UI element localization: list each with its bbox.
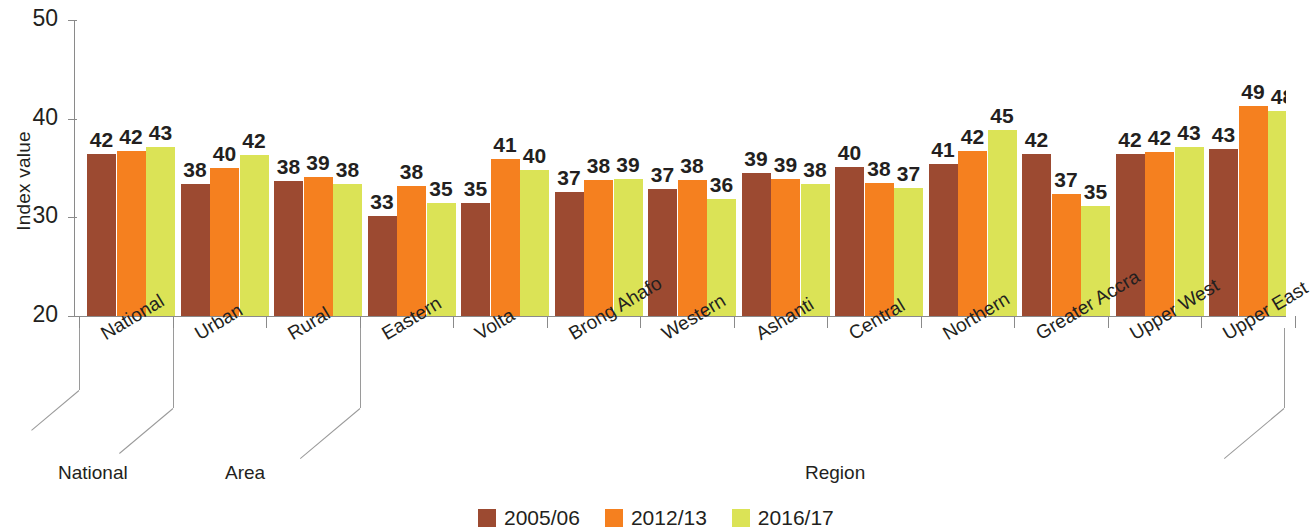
bar (1239, 106, 1268, 316)
group-bracket-line (173, 328, 174, 408)
bar (555, 192, 584, 316)
x-tick-mark (640, 316, 641, 328)
group-bracket-line (1284, 328, 1285, 408)
bar-group: 424243 (87, 20, 175, 316)
legend-item: 2005/06 (478, 506, 580, 530)
bar (742, 173, 771, 316)
bar (1268, 111, 1286, 316)
bar-value-label: 38 (327, 158, 368, 182)
bar (87, 154, 116, 316)
x-tick-mark (921, 316, 922, 328)
group-bracket-diagonal (1224, 408, 1284, 459)
x-tick-mark (453, 316, 454, 328)
bar (333, 184, 362, 316)
bar (304, 177, 333, 316)
bar (929, 164, 958, 316)
bar-group: 384042 (181, 20, 269, 316)
plot-area: 4242433840423839383338353541403738393738… (74, 20, 1286, 316)
bar (274, 181, 303, 316)
bar (491, 159, 520, 316)
x-tick-mark (827, 316, 828, 328)
x-tick-mark (1201, 316, 1202, 328)
bar-value-label: 43 (140, 121, 181, 145)
bar (1052, 194, 1081, 316)
legend-swatch-icon (605, 509, 623, 527)
bar-value-label: 36 (701, 173, 742, 197)
bar-group: 354140 (461, 20, 549, 316)
legend-label: 2012/13 (631, 506, 707, 530)
bar (958, 151, 987, 316)
group-bracket-diagonal (31, 390, 79, 431)
bar-group: 373836 (648, 20, 736, 316)
x-tick-mark (266, 316, 267, 328)
bar (240, 155, 269, 316)
axis-group-label: Area (225, 462, 265, 484)
x-tick-mark (79, 316, 80, 328)
bar (210, 168, 239, 316)
bar-value-label: 48 (1262, 85, 1286, 109)
x-tick-mark (1108, 316, 1109, 328)
bar-group: 393938 (742, 20, 830, 316)
y-tick-label: 40 (14, 104, 58, 131)
bar-group: 383938 (274, 20, 362, 316)
y-tick-label: 20 (14, 301, 58, 328)
bar (146, 147, 175, 316)
bar-group: 434948 (1209, 20, 1286, 316)
legend-label: 2016/17 (758, 506, 834, 530)
bar-value-label: 42 (1016, 128, 1057, 152)
bar (461, 203, 490, 316)
group-bracket-diagonal (119, 408, 173, 454)
bar (1145, 152, 1174, 316)
legend-item: 2016/17 (732, 506, 834, 530)
bar-group: 333835 (368, 20, 456, 316)
x-tick-mark (1014, 316, 1015, 328)
legend-swatch-icon (478, 509, 496, 527)
legend: 2005/062012/132016/17 (478, 506, 850, 530)
axis-group-label: Region (805, 462, 865, 484)
bar-value-label: 40 (514, 144, 555, 168)
x-tick-mark (1295, 316, 1296, 328)
bar-group: 423735 (1022, 20, 1110, 316)
bar (584, 180, 613, 316)
bar (865, 183, 894, 316)
bar (520, 170, 549, 316)
y-tick-label: 50 (14, 5, 58, 32)
bar (678, 180, 707, 316)
x-tick-mark (173, 316, 174, 328)
group-bracket-diagonal (299, 408, 359, 459)
bar (117, 151, 146, 316)
x-tick-mark (547, 316, 548, 328)
bar-group: 414245 (929, 20, 1017, 316)
legend-item: 2012/13 (605, 506, 707, 530)
x-tick-mark (734, 316, 735, 328)
bar-group: 373839 (555, 20, 643, 316)
axis-group-label: National (58, 462, 128, 484)
bar (397, 186, 426, 316)
group-bracket-line (79, 328, 80, 390)
y-tick-mark (68, 316, 77, 317)
bar (368, 216, 397, 316)
legend-label: 2005/06 (504, 506, 580, 530)
bar-value-label: 45 (982, 104, 1023, 128)
bar (771, 179, 800, 316)
x-tick-mark (360, 316, 361, 328)
bar-group: 403837 (835, 20, 923, 316)
bar-value-label: 42 (234, 129, 275, 153)
y-tick-label: 30 (14, 202, 58, 229)
bar-value-label: 37 (888, 162, 929, 186)
bar-value-label: 35 (1075, 180, 1116, 204)
bar (181, 184, 210, 316)
bar (835, 167, 864, 316)
group-bracket-line (360, 328, 361, 408)
legend-swatch-icon (732, 509, 750, 527)
